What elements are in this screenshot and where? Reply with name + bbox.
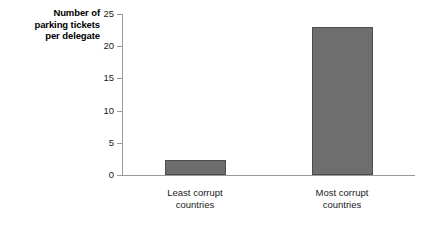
y-axis-title-line-2: parking tickets [8,19,100,31]
x-axis-line [122,175,415,176]
x-axis-category-label: Least corruptcountries [130,187,260,211]
bar-chart: Number of parking tickets per delegate 0… [0,0,437,227]
y-axis-tick-label: 5 [92,138,114,148]
x-axis-category-label-line: countries [130,199,260,211]
x-axis-category-label-line: countries [277,199,407,211]
y-axis-title-line-1: Number of [8,7,100,19]
x-axis-category-label: Most corruptcountries [277,187,407,211]
y-axis-tick [117,175,122,176]
y-axis-title-line-3: per delegate [8,30,100,42]
y-axis-tick-label: 0 [92,170,114,180]
x-axis-category-label-line: Least corrupt [130,187,260,199]
y-axis-tick [117,111,122,112]
y-axis-tick [117,46,122,47]
y-axis-tick-label: 10 [92,106,114,116]
y-axis-tick-label-text: 15 [92,73,114,83]
y-axis-tick [117,143,122,144]
y-axis-tick [117,14,122,15]
y-axis-tick [117,78,122,79]
y-axis-tick-label: 25 [92,9,114,19]
bar [165,160,226,175]
y-axis-tick-label: 15 [92,73,114,83]
bar [312,27,373,175]
y-axis-tick-label-text: 10 [92,106,114,116]
y-axis-tick-label: 20 [92,41,114,51]
y-axis-tick-label-text: 0 [92,170,114,180]
x-axis-category-label-line: Most corrupt [277,187,407,199]
y-axis-tick-label-text: 5 [92,138,114,148]
y-axis-tick-label-text: 20 [92,41,114,51]
y-axis-title: Number of parking tickets per delegate [8,7,100,42]
y-axis-tick-label-text: 25 [92,9,114,19]
y-axis-line [122,14,123,176]
